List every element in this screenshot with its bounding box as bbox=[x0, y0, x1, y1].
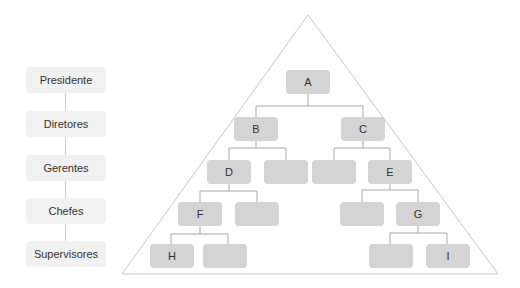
node-blank-c1[interactable] bbox=[312, 160, 356, 184]
node-blank-b2[interactable] bbox=[264, 160, 308, 184]
node-c[interactable]: C bbox=[341, 117, 385, 141]
node-a[interactable]: A bbox=[286, 70, 330, 94]
node-b[interactable]: B bbox=[234, 117, 278, 141]
node-f[interactable]: F bbox=[178, 202, 222, 226]
node-blank-f2[interactable] bbox=[203, 244, 247, 268]
node-blank-g1[interactable] bbox=[369, 244, 413, 268]
node-e[interactable]: E bbox=[368, 160, 412, 184]
node-i[interactable]: I bbox=[426, 244, 470, 268]
node-blank-d2[interactable] bbox=[235, 202, 279, 226]
node-g[interactable]: G bbox=[396, 202, 440, 226]
node-h[interactable]: H bbox=[150, 244, 194, 268]
node-d[interactable]: D bbox=[207, 160, 251, 184]
node-blank-e1[interactable] bbox=[340, 202, 384, 226]
